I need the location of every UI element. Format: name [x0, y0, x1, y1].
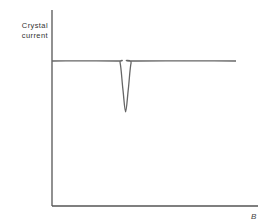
y-axis-label-line-2: current	[2, 31, 48, 41]
x-axis-label: B	[251, 212, 256, 221]
y-axis-label-line-1: Crystal	[2, 21, 48, 31]
crystal-current-curve	[52, 60, 236, 112]
y-axis-label: Crystal current	[2, 21, 48, 41]
